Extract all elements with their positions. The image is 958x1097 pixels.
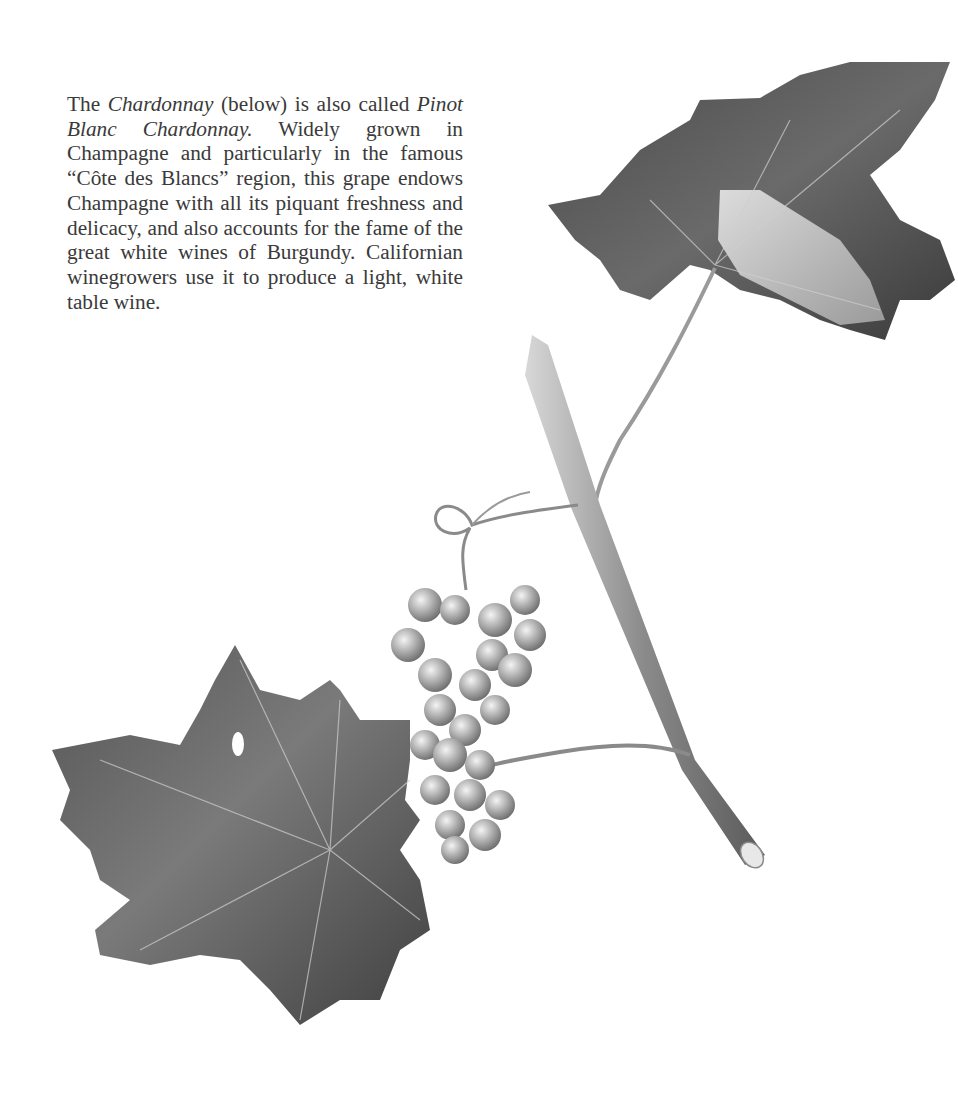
upper-leaf [548,62,955,340]
upper-leaf-stalk [596,268,715,500]
book-page: The Chardonnay (below) is also called Pi… [0,0,958,1097]
grapevine-illustration [0,0,958,1097]
lower-leaf-stalk [480,745,690,768]
lower-leaf [52,645,430,1025]
main-cane [525,335,765,865]
tendril [435,505,578,590]
